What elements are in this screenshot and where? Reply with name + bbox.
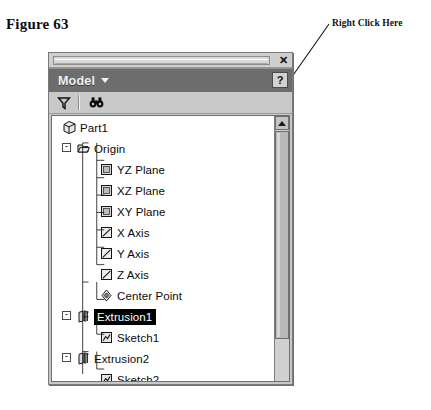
tree-item-label: XZ Plane — [117, 185, 165, 197]
tree-item-label: YZ Plane — [117, 164, 165, 176]
tree-item-label: Center Point — [117, 290, 182, 302]
toolbar-separator — [78, 95, 80, 110]
filter-icon[interactable] — [54, 93, 74, 112]
origin-folder-icon — [76, 141, 91, 156]
vertical-scrollbar[interactable] — [274, 116, 289, 381]
tree-item-y-axis[interactable]: Y Axis — [52, 243, 274, 264]
model-tree-panel: ✕ Model ? Part1-OriginYZ Pla — [48, 52, 293, 385]
tree-item-xz-plane[interactable]: XZ Plane — [52, 180, 274, 201]
extrusion-icon — [76, 309, 91, 324]
tree-item-label: XY Plane — [117, 206, 166, 218]
tree-item-origin[interactable]: -Origin — [52, 138, 274, 159]
tree-item-label: Z Axis — [117, 269, 149, 281]
close-icon[interactable]: ✕ — [279, 53, 288, 67]
sketch-icon — [99, 372, 114, 381]
expander-toggle[interactable]: - — [62, 143, 71, 152]
find-icon[interactable] — [86, 93, 106, 112]
tree-item-label: Part1 — [80, 122, 108, 134]
axis-icon — [99, 246, 114, 261]
chevron-down-icon[interactable] — [101, 78, 109, 83]
expander-toggle[interactable]: - — [62, 311, 71, 320]
scroll-up-icon[interactable] — [275, 116, 289, 130]
tree-item-label: Extrusion1 — [94, 309, 156, 325]
plane-icon — [99, 162, 114, 177]
tree-item-extrusion1[interactable]: -Extrusion1 — [52, 306, 274, 327]
tree-item-label: Origin — [94, 143, 125, 155]
tree-item-yz-plane[interactable]: YZ Plane — [52, 159, 274, 180]
plane-icon — [99, 204, 114, 219]
tree-item-center-point[interactable]: Center Point — [52, 285, 274, 306]
axis-icon — [99, 225, 114, 240]
sketch-icon — [99, 330, 114, 345]
tree-item-sketch2[interactable]: Sketch2 — [52, 369, 274, 381]
tree-item-x-axis[interactable]: X Axis — [52, 222, 274, 243]
tree-item-label: Sketch1 — [117, 332, 159, 344]
tree-item-label: X Axis — [117, 227, 150, 239]
center-point-icon — [99, 288, 114, 303]
figure-caption: Figure 63 — [6, 16, 69, 33]
tree-item-label: Sketch2 — [117, 374, 159, 382]
feature-tree[interactable]: Part1-OriginYZ PlaneXZ PlaneXY PlaneX Ax… — [52, 116, 274, 381]
panel-toolbar — [49, 92, 292, 114]
panel-title: Model — [58, 74, 95, 88]
feature-tree-area: Part1-OriginYZ PlaneXZ PlaneXY PlaneX Ax… — [51, 115, 290, 382]
extrusion-icon — [76, 351, 91, 366]
tree-item-z-axis[interactable]: Z Axis — [52, 264, 274, 285]
panel-header: Model ? — [49, 68, 292, 92]
scroll-thumb[interactable] — [275, 131, 289, 339]
plane-icon — [99, 183, 114, 198]
tree-item-sketch1[interactable]: Sketch1 — [52, 327, 274, 348]
part-cube-icon — [62, 120, 77, 135]
tree-item-label: Y Axis — [117, 248, 149, 260]
tree-item-extrusion2[interactable]: -Extrusion2 — [52, 348, 274, 369]
expander-toggle[interactable]: - — [62, 353, 71, 362]
tree-item-xy-plane[interactable]: XY Plane — [52, 201, 274, 222]
panel-grip-bar[interactable]: ✕ — [49, 53, 292, 68]
annotation-right-click-here: Right Click Here — [332, 18, 403, 28]
axis-icon — [99, 267, 114, 282]
tree-item-label: Extrusion2 — [94, 353, 149, 365]
help-button[interactable]: ? — [272, 72, 288, 88]
tree-item-part1[interactable]: Part1 — [52, 117, 274, 138]
drag-grip-icon[interactable] — [53, 56, 270, 65]
